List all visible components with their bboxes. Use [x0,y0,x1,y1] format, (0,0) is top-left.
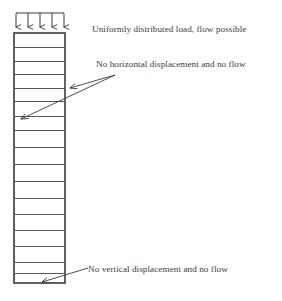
label-uniform-load: Uniformly distributed load, flow possibl… [92,24,246,35]
label-no-horizontal-displacement: No horizontal displacement and no flow [96,59,246,70]
label-no-vertical-displacement: No vertical displacement and no flow [88,264,228,275]
side-leader-upper [70,75,115,88]
load-arrow-array-icon [16,13,64,27]
side-boundary-leader-arrow-icon [21,75,115,119]
column-mesh-diagram [0,0,282,301]
figure-canvas: Uniformly distributed load, flow possibl… [0,0,282,301]
side-leader-lower [21,75,115,119]
mesh-row-dividers [14,47,65,273]
